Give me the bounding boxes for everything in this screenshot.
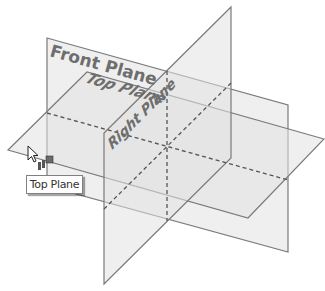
tooltip: Top Plane (26, 175, 83, 194)
right-plane[interactable] (104, 7, 231, 284)
planes-diagram: Front Plane Top Plane Right Plane (0, 0, 325, 291)
arrow-cursor-icon (27, 145, 41, 165)
